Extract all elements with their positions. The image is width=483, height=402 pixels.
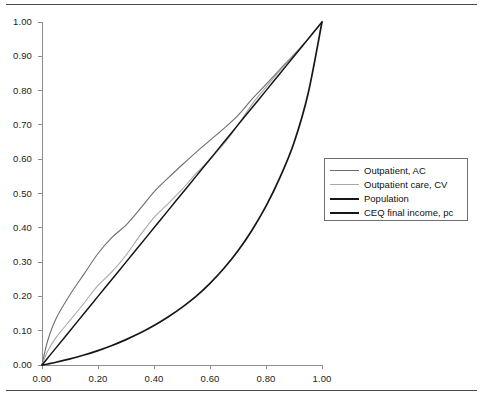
- legend-swatch-line: [330, 170, 359, 171]
- x-tick-label: 1.00: [302, 373, 342, 384]
- legend-line-swatch: [330, 179, 359, 189]
- chart-figure: 0.000.100.200.300.400.500.600.700.800.90…: [0, 0, 483, 402]
- legend-row: Outpatient, AC: [325, 163, 467, 177]
- y-tick-label: 0.50: [2, 188, 32, 199]
- y-tick-label: 0.70: [2, 119, 32, 130]
- curve-group: [42, 22, 322, 365]
- x-tick-label: 0.40: [134, 373, 174, 384]
- y-tick-label: 0.60: [2, 153, 32, 164]
- x-tick-label: 0.00: [22, 373, 62, 384]
- chart-legend: Outpatient, ACOutpatient care, CVPopulat…: [324, 158, 468, 221]
- series-line-population: [42, 22, 322, 365]
- y-tick-label: 0.10: [2, 325, 32, 336]
- legend-row: Outpatient care, CV: [325, 177, 467, 191]
- x-tick-label: 0.80: [246, 373, 286, 384]
- legend-line-swatch: [330, 207, 359, 217]
- legend-line-swatch: [330, 165, 359, 175]
- legend-swatch-line: [330, 212, 359, 214]
- y-tick-label: 0.20: [2, 290, 32, 301]
- legend-line-swatch: [330, 193, 359, 203]
- legend-row: Population: [325, 191, 467, 205]
- y-tick-label: 1.00: [2, 16, 32, 27]
- y-tick-label: 0.80: [2, 85, 32, 96]
- x-tick-label: 0.20: [78, 373, 118, 384]
- legend-swatch-line: [330, 184, 359, 185]
- legend-label: Outpatient care, CV: [364, 179, 447, 190]
- legend-label: CEQ final income, pc: [364, 207, 453, 218]
- legend-swatch-line: [330, 198, 359, 200]
- y-tick-label: 0.00: [2, 359, 32, 370]
- legend-label: Outpatient, AC: [364, 165, 426, 176]
- y-tick-label: 0.30: [2, 256, 32, 267]
- y-tick-label: 0.40: [2, 222, 32, 233]
- legend-label: Population: [364, 193, 409, 204]
- x-tick-label: 0.60: [190, 373, 230, 384]
- legend-row: CEQ final income, pc: [325, 205, 467, 219]
- y-tick-label: 0.90: [2, 50, 32, 61]
